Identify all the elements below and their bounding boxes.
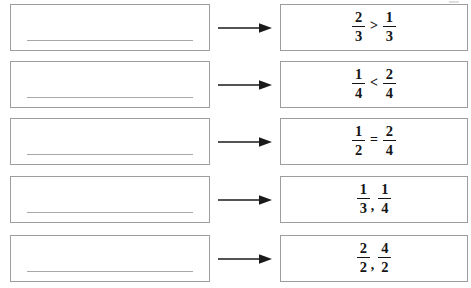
numerator: 2 — [353, 10, 364, 26]
fraction-left-3: 1 2 — [352, 124, 365, 158]
worksheet-row: 2 2 , 4 2 — [0, 235, 471, 282]
denominator: 2 — [353, 142, 364, 158]
fraction-bar-icon — [378, 198, 391, 199]
fraction-right-5: 4 2 — [378, 241, 391, 275]
fraction-right-2: 2 4 — [383, 67, 396, 101]
denominator: 4 — [384, 85, 395, 101]
answer-box-5[interactable] — [10, 235, 210, 282]
denominator: 3 — [358, 200, 369, 216]
fraction-expression-3: 1 2 = 2 4 — [352, 124, 396, 158]
scan-artifact — [449, 1, 459, 3]
numerator: 2 — [384, 124, 395, 140]
numerator: 2 — [358, 241, 369, 257]
fraction-expression-2: 1 4 < 2 4 — [352, 67, 396, 101]
denominator: 2 — [358, 259, 369, 275]
denominator: 3 — [353, 28, 364, 44]
fraction-left-1: 2 3 — [352, 10, 365, 44]
arrow-right-icon — [217, 61, 273, 108]
operator-2: < — [365, 76, 383, 90]
fraction-bar-icon — [378, 257, 391, 258]
arrow-right-icon — [217, 4, 273, 51]
fraction-left-4: 1 3 — [357, 182, 370, 216]
expression-box-3: 1 2 = 2 4 — [280, 118, 468, 165]
fraction-bar-icon — [352, 140, 365, 141]
expression-box-2: 1 4 < 2 4 — [280, 61, 468, 108]
answer-box-1[interactable] — [10, 4, 210, 51]
operator-3: = — [365, 133, 383, 147]
fraction-left-2: 1 4 — [352, 67, 365, 101]
answer-box-4[interactable] — [10, 176, 210, 223]
answer-box-3[interactable] — [10, 118, 210, 165]
fraction-bar-icon — [352, 83, 365, 84]
answer-writing-line — [27, 212, 193, 213]
fraction-right-3: 2 4 — [383, 124, 396, 158]
fraction-bar-icon — [383, 26, 396, 27]
worksheet-row: 1 4 < 2 4 — [0, 61, 471, 108]
fraction-bar-icon — [357, 257, 370, 258]
numerator: 4 — [379, 241, 390, 257]
operator-1: > — [365, 19, 383, 33]
worksheet-row: 1 2 = 2 4 — [0, 118, 471, 165]
fraction-right-1: 1 3 — [383, 10, 396, 44]
answer-writing-line — [27, 97, 193, 98]
answer-writing-line — [27, 154, 193, 155]
answer-box-2[interactable] — [10, 61, 210, 108]
worksheet: 2 3 > 1 3 — [0, 0, 471, 288]
expression-box-5: 2 2 , 4 2 — [280, 235, 468, 282]
numerator: 1 — [379, 182, 390, 198]
denominator: 2 — [379, 259, 390, 275]
fraction-right-4: 1 4 — [378, 182, 391, 216]
numerator: 1 — [353, 124, 364, 140]
fraction-expression-4: 1 3 , 1 4 — [357, 182, 392, 216]
worksheet-row: 1 3 , 1 4 — [0, 176, 471, 223]
arrow-right-icon — [217, 235, 273, 282]
operator-5: , — [370, 258, 379, 272]
numerator: 1 — [358, 182, 369, 198]
answer-writing-line — [27, 40, 193, 41]
numerator: 1 — [353, 67, 364, 83]
arrow-right-icon — [217, 118, 273, 165]
fraction-bar-icon — [383, 140, 396, 141]
fraction-bar-icon — [357, 198, 370, 199]
numerator: 1 — [384, 10, 395, 26]
arrow-right-icon — [217, 176, 273, 223]
answer-writing-line — [27, 271, 193, 272]
expression-box-1: 2 3 > 1 3 — [280, 4, 468, 51]
numerator: 2 — [384, 67, 395, 83]
fraction-left-5: 2 2 — [357, 241, 370, 275]
fraction-expression-5: 2 2 , 4 2 — [357, 241, 392, 275]
operator-4: , — [370, 199, 379, 213]
fraction-expression-1: 2 3 > 1 3 — [352, 10, 396, 44]
expression-box-4: 1 3 , 1 4 — [280, 176, 468, 223]
denominator: 4 — [353, 85, 364, 101]
denominator: 4 — [384, 142, 395, 158]
fraction-bar-icon — [352, 26, 365, 27]
denominator: 3 — [384, 28, 395, 44]
fraction-bar-icon — [383, 83, 396, 84]
denominator: 4 — [379, 200, 390, 216]
worksheet-row: 2 3 > 1 3 — [0, 4, 471, 51]
